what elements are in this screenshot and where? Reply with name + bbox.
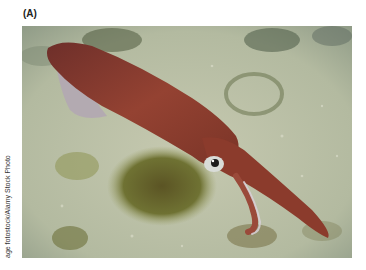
photo-credit: age fotostock/Alamy Stock Photo xyxy=(4,155,11,258)
squid-photo xyxy=(22,26,352,258)
panel-label: (A) xyxy=(23,8,37,19)
